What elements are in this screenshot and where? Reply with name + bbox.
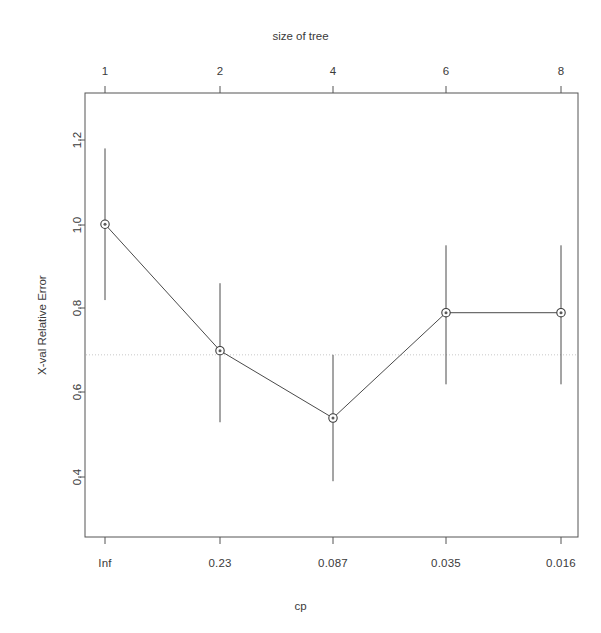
data-point-2[interactable] xyxy=(329,414,337,422)
plot-canvas: size of tree cp X-val Relative Error 124… xyxy=(0,0,601,633)
data-point-1[interactable] xyxy=(216,346,224,354)
data-point-4[interactable] xyxy=(557,309,565,317)
data-point-3[interactable] xyxy=(442,309,450,317)
data-point-0[interactable] xyxy=(101,220,109,228)
chart-graphic xyxy=(0,0,601,633)
error-bar-layer xyxy=(105,148,561,481)
axis-layer xyxy=(78,86,578,544)
